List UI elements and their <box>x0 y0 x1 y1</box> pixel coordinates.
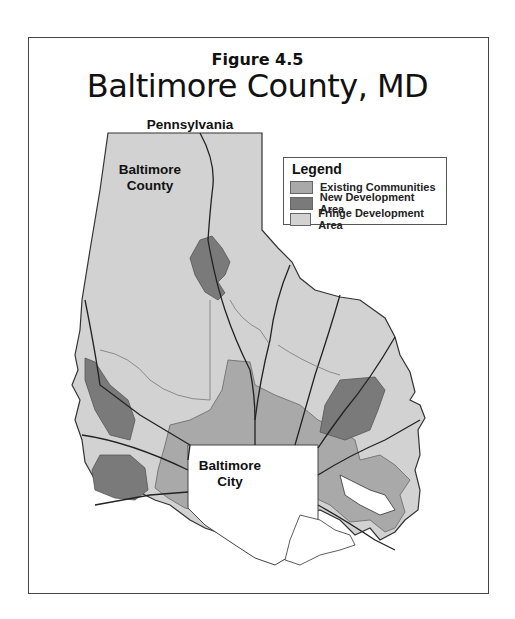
county-map <box>0 0 515 619</box>
city-label: Baltimore City <box>190 458 270 490</box>
county-label: Baltimore County <box>110 162 190 194</box>
legend: Legend Existing Communities New Developm… <box>283 157 447 225</box>
legend-swatch-fringe <box>290 213 311 226</box>
pennsylvania-label: Pennsylvania <box>140 117 240 133</box>
county-label-line2: County <box>110 178 190 194</box>
city-label-line2: City <box>190 474 270 490</box>
legend-label: Fringe Development Area <box>318 207 440 231</box>
city-label-line1: Baltimore <box>190 458 270 474</box>
legend-swatch-existing <box>290 181 313 194</box>
legend-item-fringe: Fringe Development Area <box>290 211 440 227</box>
legend-title: Legend <box>292 161 440 177</box>
county-label-line1: Baltimore <box>110 162 190 178</box>
legend-swatch-new <box>290 197 313 210</box>
